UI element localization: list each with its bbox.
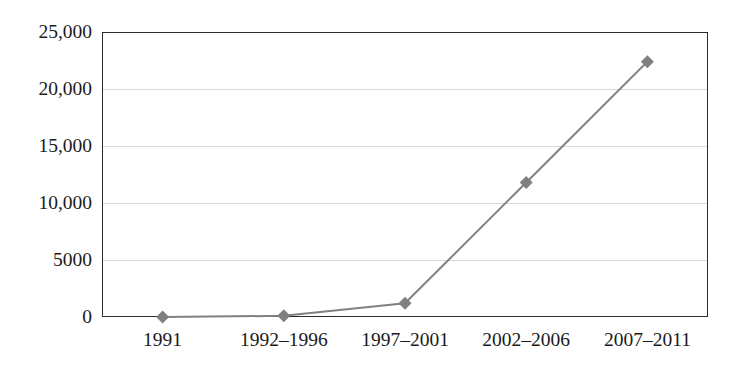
y-axis-tick-label: 15,000 [0, 136, 92, 156]
x-axis-category-label: 1997–2001 [361, 330, 449, 350]
gridline [103, 203, 707, 204]
x-axis-category-label: 2007–2011 [604, 330, 691, 350]
gridline [103, 146, 707, 147]
x-axis-category-label: 1991 [143, 330, 182, 350]
x-axis-category-label: 2002–2006 [482, 330, 570, 350]
y-axis-tick-label: 0 [0, 307, 92, 327]
gridline [103, 89, 707, 90]
y-axis-tick-label: 10,000 [0, 193, 92, 213]
plot-area [102, 32, 708, 317]
x-axis-category-label: 1992–1996 [240, 330, 328, 350]
y-axis-tick-label: 5000 [0, 250, 92, 270]
gridline [103, 260, 707, 261]
line-chart: 0500010,00015,00020,00025,000 19911992–1… [0, 0, 743, 380]
y-axis-tick-label: 25,000 [0, 22, 92, 42]
y-axis-tick-label: 20,000 [0, 79, 92, 99]
